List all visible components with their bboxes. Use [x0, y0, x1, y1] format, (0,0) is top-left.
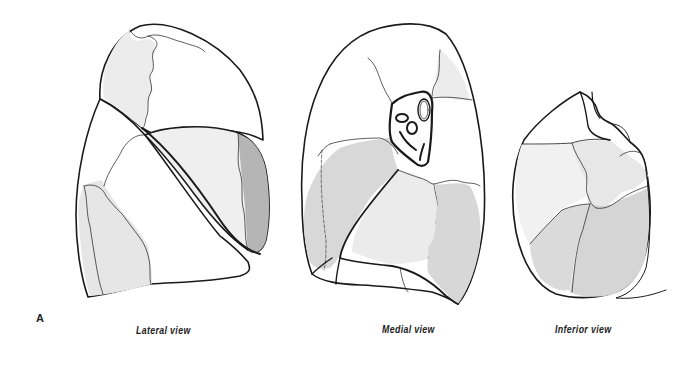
lung-segments-figure: A Lateral view Medial view Inferior view [0, 0, 684, 368]
inferior-view-label: Inferior view [555, 324, 611, 335]
lateral-view-lung [76, 24, 269, 297]
inferior-view-lung [513, 92, 666, 298]
lateral-view-label: Lateral view [136, 325, 191, 336]
panel-letter: A [36, 312, 44, 324]
medial-view-label: Medial view [382, 324, 435, 335]
lung-illustrations [0, 0, 684, 368]
medial-view-lung [302, 24, 485, 304]
